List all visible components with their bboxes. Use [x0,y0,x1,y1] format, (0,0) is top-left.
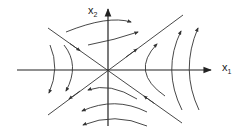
stable-arrow-upper [70,44,80,51]
trajectories-right [145,28,199,110]
trajectories-top [66,20,138,45]
axes [17,9,211,126]
phase-portrait: x2 x1 [0,0,241,131]
trajectories-left [49,45,73,93]
unstable-arrow-lower [69,91,80,99]
stable-arrow-lower [144,96,154,103]
unstable-arrow-upper [126,49,137,57]
unstable-manifold [48,15,183,115]
x1-axis-label: x1 [222,61,232,75]
stable-manifold [48,28,182,123]
trajectories-bottom [82,87,147,126]
x2-axis-label: x2 [88,4,98,18]
